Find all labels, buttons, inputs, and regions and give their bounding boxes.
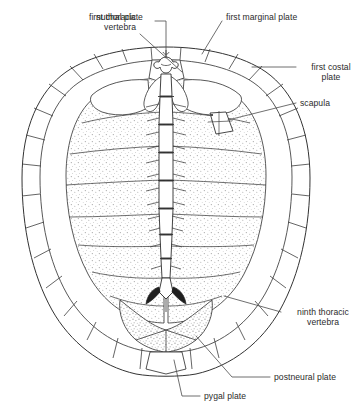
neural-plates — [159, 74, 173, 278]
first-costal-plate-right — [182, 80, 242, 115]
label-text: ninth thoracicvertebra — [297, 307, 349, 327]
label-pygal-plate: pygal plate — [204, 391, 270, 401]
label-text: first marginal plate — [226, 12, 297, 22]
label-text: scapula — [300, 98, 330, 108]
leader-ninth-thoracic-vertebra — [224, 296, 281, 312]
label-text: postneural plate — [274, 372, 336, 382]
pygal-plate — [146, 352, 186, 374]
leader-first-marginal-plate — [202, 21, 222, 54]
label-first-marginal-plate: first marginal plate — [226, 12, 336, 22]
label-postneural-plate: postneural plate — [274, 372, 364, 382]
label-first-costal-plate: first costalplate — [300, 62, 362, 83]
first-costal-plate-left — [90, 80, 150, 115]
label-nuchal-plate: nuchal plate — [96, 12, 162, 22]
label-text: pygal plate — [204, 391, 246, 401]
label-scapula: scapula — [300, 98, 356, 108]
label-text: nuchal plate — [96, 12, 143, 22]
label-ninth-thoracic-vertebra: ninth thoracicvertebra — [284, 307, 362, 328]
label-text: first costalplate — [311, 62, 350, 82]
